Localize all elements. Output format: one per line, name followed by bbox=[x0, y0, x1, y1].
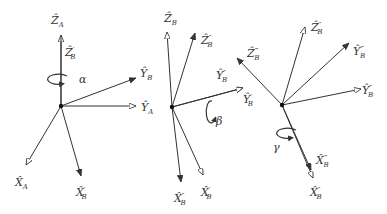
axis-label: Ẑ‴B bbox=[246, 46, 259, 62]
axis-label: Ŷ‴B bbox=[353, 44, 365, 60]
axis-x-b bbox=[172, 107, 181, 182]
axis-label: X̂′B bbox=[200, 186, 212, 201]
origin-dot bbox=[59, 104, 63, 108]
axis-label: X̂″B bbox=[309, 186, 322, 201]
rotation-arrow-icon bbox=[206, 101, 215, 123]
axis-label: Ẑ′B bbox=[64, 45, 75, 61]
axis-label: Ẑ″B bbox=[310, 20, 322, 36]
axis-axis-b bbox=[282, 89, 361, 105]
axis-axis-b bbox=[167, 32, 172, 107]
axis-label: X̂″B bbox=[173, 192, 186, 207]
axis-label: X̂‴B bbox=[315, 154, 329, 169]
axis-label: ẐB bbox=[163, 11, 177, 27]
axis-label: ŶA bbox=[141, 100, 153, 116]
axis-x-a bbox=[26, 106, 61, 165]
axis-label: ŶB bbox=[140, 66, 152, 82]
rotation-angle-label: γ bbox=[273, 141, 280, 154]
rotation-angle-label: α bbox=[79, 73, 87, 86]
euler-rotation-diagram: ẐAẐ′BŶBŶAX̂AX̂′BαẐBẐ″BŶ″BŶ′BX̂″BX̂′BβẐ‴B… bbox=[0, 0, 387, 214]
axis-label: Ŷ″B bbox=[362, 83, 373, 99]
axis-label: ẐA bbox=[50, 13, 64, 29]
axis-x-b bbox=[61, 106, 81, 176]
axis-label: Ẑ″B bbox=[200, 33, 212, 49]
axis-label: X̂A bbox=[14, 176, 28, 191]
panel-rotation-gamma: Ẑ‴BẐ″BŶ‴BŶ″BX̂‴BX̂″Bγ bbox=[237, 20, 373, 201]
axis-axis-b bbox=[172, 33, 195, 107]
panel-rotation-alpha: ẐAẐ′BŶBŶAX̂AX̂′Bα bbox=[14, 13, 153, 201]
rotation-angle-label: β bbox=[215, 115, 222, 128]
axis-x-b bbox=[282, 105, 313, 178]
axis-x-b bbox=[172, 107, 203, 175]
origin-dot bbox=[280, 103, 284, 107]
rotation-arrow-icon bbox=[48, 74, 67, 84]
axis-label: Ŷ′B bbox=[243, 92, 253, 108]
origin-dot bbox=[170, 105, 174, 109]
panel-rotation-beta: ẐBẐ″BŶ″BŶ′BX̂″BX̂′Bβ bbox=[163, 11, 253, 207]
axis-label: Ŷ″B bbox=[216, 68, 227, 84]
axis-axis-b bbox=[282, 27, 305, 105]
axis-axis-b bbox=[282, 43, 349, 105]
axis-label: X̂′B bbox=[75, 186, 87, 201]
axis-axis-b bbox=[61, 78, 136, 106]
